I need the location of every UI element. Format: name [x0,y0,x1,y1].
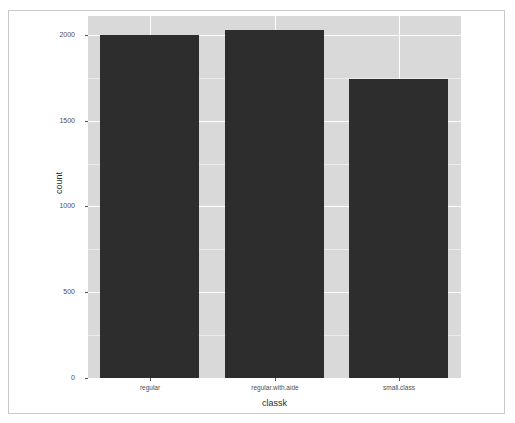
y-tick-label: 500 [0,288,81,295]
y-tick-label: 1000 [0,202,81,209]
bar [349,79,448,378]
y-tick-label: 0 [0,374,81,381]
bar [100,35,199,378]
y-tick-label: 2000 [0,31,81,38]
y-tick-label: 1500 [0,117,81,124]
chart-figure: count 0500100015002000 regularregular.wi… [0,0,515,423]
x-tick-mark [150,378,151,381]
x-tick-mark [275,378,276,381]
plot-panel [88,16,461,378]
x-tick-mark [399,378,400,381]
x-axis-title: classk [88,398,461,408]
x-tick-label: regular.with.aide [251,385,298,392]
x-tick-label: regular [140,385,160,392]
y-axis-title: count [54,172,64,194]
bar [225,30,324,378]
y-tick-mark [85,378,88,379]
x-tick-label: small.class [383,385,415,392]
